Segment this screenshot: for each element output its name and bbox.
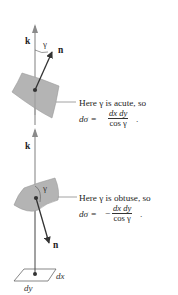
dx-label: dx xyxy=(56,271,65,281)
k-label-top: k xyxy=(25,36,30,46)
k-label-bottom: k xyxy=(25,141,30,151)
note-acute: Here γ is acute, so xyxy=(79,98,146,108)
frac-den-acute: cos γ xyxy=(108,119,128,128)
n-label-top: n xyxy=(58,45,63,55)
eq-end-obtuse: . xyxy=(140,209,142,219)
top-surface-patch xyxy=(12,73,59,118)
note-obtuse: Here γ is obtuse, so xyxy=(79,193,151,203)
point-top xyxy=(33,88,37,92)
bottom-surface-patch xyxy=(14,178,59,211)
point-bottom xyxy=(34,196,38,200)
k-arrowhead-bottom-icon xyxy=(32,128,38,137)
gamma-label-bottom: γ xyxy=(43,183,47,193)
n-label-bottom: n xyxy=(53,240,58,250)
eq-lhs-acute: dσ = xyxy=(79,114,97,124)
gamma-label-top: γ xyxy=(43,39,47,49)
eq-lhs-obtuse: dσ = xyxy=(79,209,97,219)
eq-sign-obtuse: − xyxy=(105,209,110,219)
frac-den-obtuse: cos γ xyxy=(112,214,132,223)
dy-label: dy xyxy=(24,283,33,293)
surface-area-element-diagram: k γ n Here γ is acute, so dσ = dx dy cos… xyxy=(0,0,178,295)
fraction-acute: dx dy cos γ xyxy=(108,109,128,128)
eq-end-acute: . xyxy=(136,114,138,124)
gamma-arc-top xyxy=(35,50,48,53)
k-arrowhead-top-icon xyxy=(32,24,38,33)
fraction-obtuse: dx dy cos γ xyxy=(112,204,132,223)
